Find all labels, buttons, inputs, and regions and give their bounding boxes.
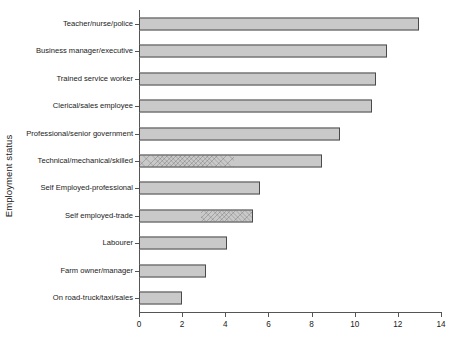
x-axis-tick-label: 10 xyxy=(350,320,359,329)
y-axis-tick xyxy=(135,134,139,135)
category-label: Self employed-trade xyxy=(16,212,133,220)
bar xyxy=(139,209,253,222)
category-label-list: Teacher/nurse/policeBusiness manager/exe… xyxy=(16,10,133,312)
category-label: Technical/mechanical/skilled xyxy=(16,157,133,165)
y-axis-tick xyxy=(135,161,139,162)
bar xyxy=(139,264,206,277)
bar-chart: Employment status Teacher/nurse/policeBu… xyxy=(0,0,451,352)
y-axis-tick xyxy=(135,216,139,217)
category-label: Trained service worker xyxy=(16,75,133,83)
x-axis-tick xyxy=(268,312,269,317)
x-axis-tick-label: 12 xyxy=(393,320,402,329)
x-axis-tick xyxy=(225,312,226,317)
bar xyxy=(139,155,322,168)
category-label: Labourer xyxy=(16,239,133,247)
x-axis-tick-label: 4 xyxy=(223,320,228,329)
category-label: Teacher/nurse/police xyxy=(16,20,133,28)
y-axis-tick xyxy=(135,188,139,189)
x-axis-tick xyxy=(355,312,356,317)
x-axis-line xyxy=(139,312,442,313)
category-label: Farm owner/manager xyxy=(16,267,133,275)
y-axis-tick xyxy=(135,106,139,107)
x-axis-tick-label: 8 xyxy=(309,320,314,329)
y-axis-tick xyxy=(135,24,139,25)
y-axis-tick xyxy=(135,243,139,244)
bar xyxy=(139,72,376,85)
category-label: Clerical/sales employee xyxy=(16,102,133,110)
bar xyxy=(139,100,372,113)
category-label: Self Employed-professional xyxy=(16,184,133,192)
bar xyxy=(139,182,260,195)
plot-area xyxy=(139,10,441,312)
bar xyxy=(139,17,419,30)
y-axis-tick xyxy=(135,298,139,299)
x-axis-tick xyxy=(441,312,442,317)
x-axis-tick xyxy=(182,312,183,317)
x-axis-tick-label: 14 xyxy=(436,320,445,329)
bar xyxy=(139,292,182,305)
y-axis-tick xyxy=(135,271,139,272)
bar xyxy=(139,127,340,140)
x-axis-tick xyxy=(398,312,399,317)
x-axis-tick-label: 2 xyxy=(180,320,185,329)
y-axis-tick xyxy=(135,79,139,80)
x-axis-tick xyxy=(139,312,140,317)
bar xyxy=(139,45,387,58)
category-label: Professional/senior government xyxy=(16,130,133,138)
x-axis-tick-label: 6 xyxy=(266,320,271,329)
x-axis-tick-label: 0 xyxy=(137,320,142,329)
category-label: On road-truck/taxi/sales xyxy=(16,294,133,302)
category-label: Business manager/executive xyxy=(16,47,133,55)
y-axis-title: Employment status xyxy=(0,0,16,352)
bar xyxy=(139,237,227,250)
x-axis-tick xyxy=(312,312,313,317)
y-axis-tick xyxy=(135,51,139,52)
